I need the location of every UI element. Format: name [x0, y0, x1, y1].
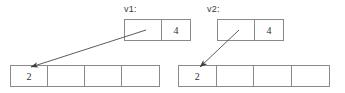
array-cell [122, 66, 159, 86]
array-cell [85, 66, 122, 86]
pointer-cell-address-v2 [218, 20, 255, 40]
pointer-box-v1: 4 [124, 19, 191, 41]
pointer-cell-size-v1: 4 [162, 20, 190, 40]
array-cell [254, 66, 292, 86]
array-cell [292, 66, 330, 86]
array-cell: 2 [11, 66, 48, 86]
pointer-array-diagram: v1: v2: 4 4 2 2 [0, 0, 345, 93]
array-box-right: 2 [178, 65, 330, 87]
pointer-cell-address-v1 [125, 20, 162, 40]
pointer-cell-size-v2: 4 [255, 20, 283, 40]
variable-label-v1: v1: [124, 4, 137, 14]
array-cell [217, 66, 255, 86]
array-cell [48, 66, 85, 86]
pointer-box-v2: 4 [217, 19, 284, 41]
variable-label-v2: v2: [207, 4, 220, 14]
array-cell: 2 [179, 66, 217, 86]
array-box-left: 2 [10, 65, 160, 87]
